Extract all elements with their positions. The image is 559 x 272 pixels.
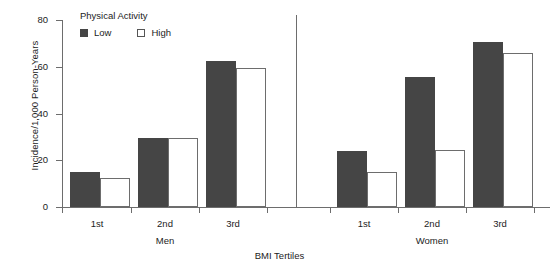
filled-square-icon — [80, 29, 88, 37]
y-tick-label-20: 20 — [18, 155, 48, 165]
x-axis-line — [62, 207, 550, 208]
x-tick-label-women-2nd: 2nd — [412, 218, 452, 229]
bar-women-3rd-high — [503, 53, 533, 207]
x-tick-women-start — [330, 207, 331, 213]
bar-chart-figure: Physical Activity Low High Incidence/1,0… — [0, 0, 559, 272]
panel-label-men: Men — [125, 235, 205, 246]
y-tick-label-0: 0 — [18, 202, 48, 212]
x-tick-men-1 — [131, 207, 132, 213]
y-tick-20 — [56, 160, 62, 161]
y-tick-40 — [56, 114, 62, 115]
y-tick-label-40: 40 — [18, 109, 48, 119]
y-tick-label-60: 60 — [18, 62, 48, 72]
legend-label-high: High — [151, 27, 171, 38]
chart-legend: Physical Activity Low High — [80, 10, 197, 38]
bar-men-1st-low — [70, 172, 100, 207]
y-tick-label-80: 80 — [18, 15, 48, 25]
y-tick-80 — [56, 20, 62, 21]
panel-divider — [296, 15, 297, 207]
x-tick-men-3 — [267, 207, 268, 213]
x-tick-label-women-3rd: 3rd — [480, 218, 520, 229]
bar-men-1st-high — [100, 178, 130, 207]
legend-item-high: High — [137, 27, 171, 38]
legend-label-low: Low — [94, 27, 111, 38]
panel-label-women: Women — [392, 235, 472, 246]
x-tick-label-men-1st: 1st — [77, 218, 117, 229]
bar-men-2nd-low — [138, 138, 168, 207]
bar-women-1st-low — [337, 151, 367, 207]
x-tick-women-2 — [466, 207, 467, 213]
x-tick-label-women-1st: 1st — [344, 218, 384, 229]
x-tick-label-men-2nd: 2nd — [145, 218, 185, 229]
bar-men-3rd-high — [236, 68, 266, 207]
open-square-icon — [137, 29, 145, 37]
x-tick-label-men-3rd: 3rd — [213, 218, 253, 229]
x-tick-men-2 — [199, 207, 200, 213]
x-axis-title: BMI Tertiles — [0, 250, 559, 261]
x-tick-men-start — [62, 207, 63, 213]
bar-women-1st-high — [367, 172, 397, 207]
bar-men-2nd-high — [168, 138, 198, 207]
x-tick-women-3 — [534, 207, 535, 213]
y-axis-title: Incidence/1,000 Person-Years — [29, 16, 40, 196]
x-tick-women-1 — [398, 207, 399, 213]
y-axis-line — [62, 20, 63, 207]
legend-item-low: Low — [80, 27, 111, 38]
y-tick-60 — [56, 67, 62, 68]
bar-women-3rd-low — [473, 42, 503, 207]
bar-men-3rd-low — [206, 61, 236, 207]
legend-title: Physical Activity — [80, 10, 197, 21]
bar-women-2nd-low — [405, 77, 435, 207]
legend-items: Low High — [80, 27, 197, 38]
bar-women-2nd-high — [435, 150, 465, 207]
